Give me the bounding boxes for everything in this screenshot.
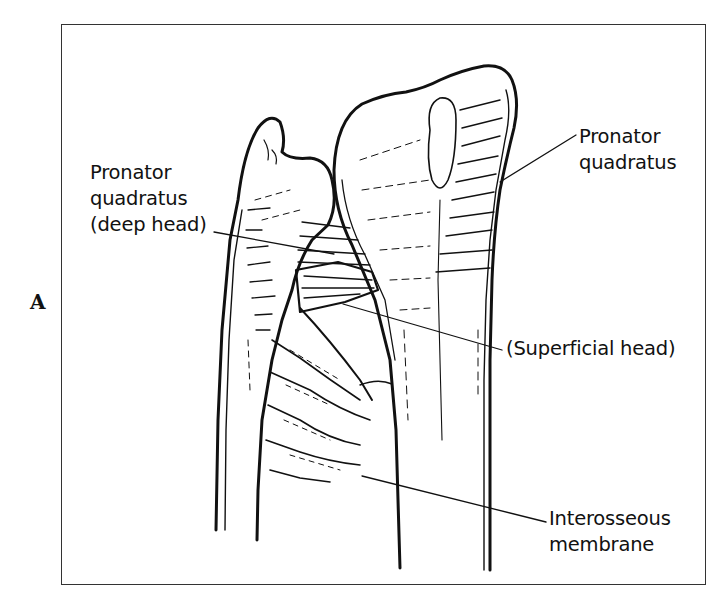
label-pronator-quadratus: Pronator quadratus xyxy=(579,124,676,176)
pronator-quadratus-muscle xyxy=(296,222,378,312)
label-superficial-head: (Superficial head) xyxy=(506,336,675,362)
interosseous-membrane xyxy=(266,308,392,482)
label-line: Interosseous xyxy=(549,506,671,532)
label-line: (deep head) xyxy=(90,212,207,238)
label-line: quadratus xyxy=(579,150,676,176)
label-line: (Superficial head) xyxy=(506,336,675,362)
label-pronator-quadratus-deep-head: Pronator quadratus (deep head) xyxy=(90,160,207,238)
label-line: membrane xyxy=(549,532,671,558)
leader-interosseous xyxy=(362,476,546,522)
ulna-bone xyxy=(216,118,334,540)
anatomy-illustration xyxy=(0,0,728,590)
label-line: Pronator xyxy=(90,160,207,186)
label-interosseous-membrane: Interosseous membrane xyxy=(549,506,671,558)
label-line: quadratus xyxy=(90,186,207,212)
radius-bone xyxy=(334,66,517,570)
label-line: Pronator xyxy=(579,124,676,150)
leader-superficial-head xyxy=(343,304,502,350)
leader-lines xyxy=(214,135,576,522)
